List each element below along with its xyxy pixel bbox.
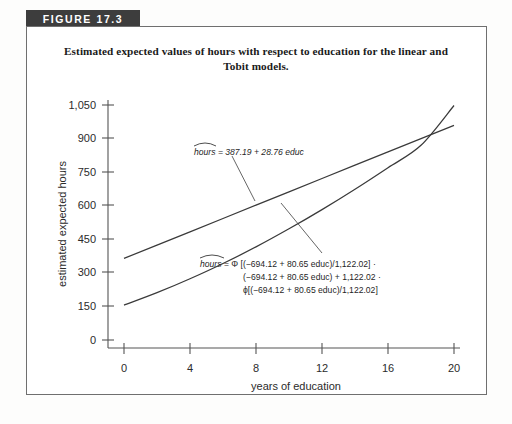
hat-linear	[194, 143, 216, 146]
x-tick-label-0: 0	[121, 362, 127, 374]
annotation-tobit-line2: (−694.12 + 80.65 educ) + 1,122.02 ·	[243, 272, 381, 282]
x-tick-label-16: 16	[382, 362, 394, 374]
series-linear-model	[124, 125, 454, 258]
figure-root: FIGURE 17.3 Estimated expected values of…	[0, 0, 512, 424]
y-tick-label-150: 150	[78, 300, 96, 312]
y-tick-label-750: 750	[78, 166, 96, 178]
x-tick-label-4: 4	[187, 362, 193, 374]
annotation-linear-hatword: hours	[194, 147, 216, 157]
y-tick-label-0: 0	[90, 334, 96, 346]
annotation-tobit-hatword: hours	[200, 259, 222, 269]
annotation-linear-text: hours = 387.19 + 28.76 educ	[194, 147, 305, 157]
annotation-tobit-line3: ϕ[(−694.12 + 80.65 educ)/1,122.02]	[243, 285, 378, 295]
annotation-tobit-line1: hours = Φ [(−694.12 + 80.65 educ)/1,122.…	[200, 259, 376, 269]
annotation-tobit: hours = Φ [(−694.12 + 80.65 educ)/1,122.…	[200, 255, 381, 295]
x-tick-label-12: 12	[316, 362, 328, 374]
y-tick-label-300: 300	[78, 266, 96, 278]
y-tick-label-450: 450	[78, 233, 96, 245]
annotation-linear-body: = 387.19 + 28.76 educ	[216, 147, 305, 157]
leader-line-tobit	[281, 203, 322, 253]
y-tick-label-600: 600	[78, 199, 96, 211]
x-axis-title: years of education	[251, 380, 341, 392]
x-tick-label-20: 20	[448, 362, 460, 374]
annotation-tobit-body1: = Φ [(−694.12 + 80.65 educ)/1,122.02] ·	[222, 259, 376, 269]
y-axis-title: estimated expected hours	[56, 161, 68, 287]
hat-tobit	[200, 255, 224, 258]
x-tick-label-8: 8	[253, 362, 259, 374]
y-tick-label-1050: 1,050	[68, 99, 96, 111]
leader-line-linear	[232, 156, 255, 201]
annotation-linear: hours = 387.19 + 28.76 educ	[194, 143, 305, 157]
chart-canvas: 1,050 900 750 600 450 300 150 0 0 4 8 12…	[0, 0, 512, 424]
y-tick-label-900: 900	[78, 132, 96, 144]
